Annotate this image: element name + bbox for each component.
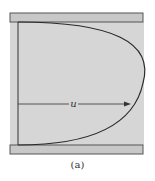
velocity-label: u xyxy=(70,98,76,109)
velocity-profile-diagram: u xyxy=(0,0,155,181)
fluid-region xyxy=(10,22,144,145)
bottom-plate xyxy=(10,145,143,154)
top-plate xyxy=(10,13,143,22)
figure-caption: (a) xyxy=(0,159,155,170)
